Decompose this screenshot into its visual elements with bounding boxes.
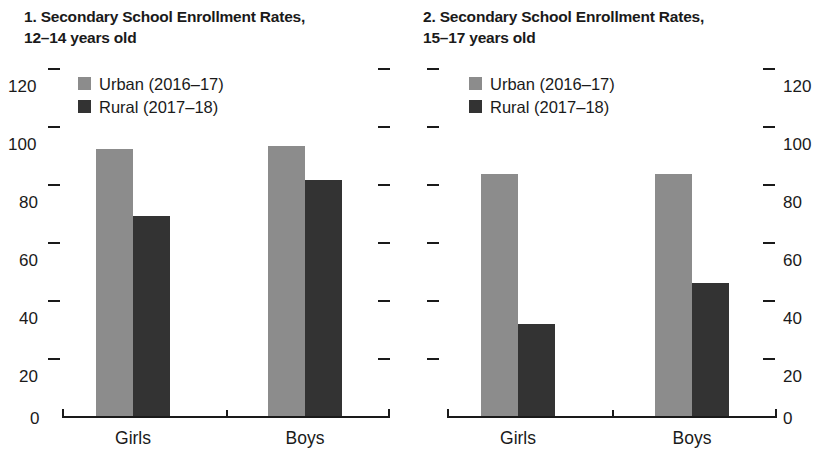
panel-2-title-line-2: 15–17 years old [423,29,535,46]
y-tick-label-120: 120 [783,78,811,95]
panel-2-title-line-1: 2. Secondary School Enrollment Rates, [423,8,704,25]
y-tick-label-60: 60 [19,252,38,269]
y-tick-label-0: 0 [783,410,792,427]
x-category-label-boys: Boys [655,428,729,448]
x-category-label-girls: Girls [96,428,170,448]
bar-boys-rural [692,283,729,416]
panel-2-plot-area [447,70,777,418]
bar-girls-urban [481,174,518,416]
y-tick-label-60: 60 [783,252,802,269]
y-tick-label-0: 0 [30,410,39,427]
bar-boys-rural [305,180,342,416]
bar-girls-rural [133,216,170,416]
panel-1-title: 1. Secondary School Enrollment Rates,12–… [24,6,394,48]
y-tick-left-60 [427,242,439,244]
panel-1-axis-cap-right [388,409,390,418]
y-tick-120 [48,68,60,70]
panel-1-title-line-2: 12–14 years old [24,29,136,46]
y-tick-40 [48,300,60,302]
panel-2-y-axis-left-ticks [427,70,447,418]
y-tick-80 [48,184,60,186]
panel-2-axis-cap-right [775,409,777,418]
panel-2-axis-cap-left [447,409,449,418]
bar-girls-urban [96,149,133,416]
panel-1-y-axis-left [42,70,62,418]
y-tick-20 [48,358,60,360]
panel-1-title-line-1: 1. Secondary School Enrollment Rates, [24,8,305,25]
y-tick-label-40: 40 [19,310,38,327]
bar-boys-urban [655,174,692,416]
y-tick-label-20: 20 [19,368,38,385]
bar-girls-rural [518,324,555,416]
y-tick-label-100: 100 [8,136,36,153]
bar-boys-urban [268,146,305,416]
y-tick-left-120 [427,68,439,70]
y-tick-label-20: 20 [783,368,802,385]
panel-1-axis-cap-mid [226,410,228,418]
panel-2-axis-cap-mid [612,410,614,418]
y-tick-100 [48,126,60,128]
y-tick-left-20 [427,358,439,360]
y-tick-left-80 [427,184,439,186]
y-tick-label-80: 80 [19,194,38,211]
two-panel-bar-chart-figure: 1. Secondary School Enrollment Rates,12–… [0,0,814,462]
panel-1-plot-area [62,70,390,418]
chart-panel-2: 2. Secondary School Enrollment Rates,15–… [407,0,814,462]
x-category-label-boys: Boys [268,428,342,448]
x-category-label-girls: Girls [481,428,555,448]
panel-1-axis-cap-left [62,409,64,418]
panel-2-title: 2. Secondary School Enrollment Rates,15–… [423,6,803,48]
y-tick-label-40: 40 [783,310,802,327]
y-tick-60 [48,242,60,244]
y-tick-left-40 [427,300,439,302]
y-tick-label-80: 80 [783,194,802,211]
y-tick-left-100 [427,126,439,128]
y-tick-label-100: 100 [783,136,811,153]
chart-panel-1: 1. Secondary School Enrollment Rates,12–… [0,0,407,462]
y-tick-label-120: 120 [8,78,36,95]
